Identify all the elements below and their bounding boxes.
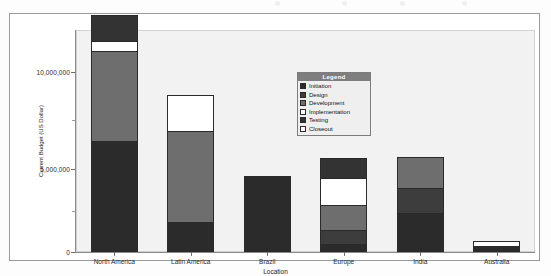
x-tick-mark [497,252,498,256]
legend-item-label: Design [309,91,328,100]
top-artifact-4 [462,1,467,6]
x-tick-label-australia: Australia [484,258,509,265]
x-tick-label-north-america: North America [94,258,135,265]
x-tick-mark [344,252,345,256]
chart-frame: Current Budget (US Dollar) 10,000,000 5,… [9,13,540,261]
legend-swatch-icon [300,109,306,115]
legend-swatch-icon [300,92,306,98]
x-tick-label-brazil: Brazil [259,258,275,265]
legend-item-initiation[interactable]: Initiation [300,82,368,91]
legend-item-label: Implementation [309,108,350,117]
x-tick-mark [114,252,115,256]
top-artifact-3 [400,1,405,6]
x-tick-mark [420,252,421,256]
legend-item-development[interactable]: Development [300,99,368,108]
top-artifact-1 [275,1,280,6]
x-tick-label-europe: Europe [333,258,354,265]
legend-title: Legend [298,73,370,81]
x-tick-mark [267,252,268,256]
x-tick-label-latin-america: Latin America [171,258,210,265]
legend-item-closeout[interactable]: Closeout [300,125,368,134]
legend-swatch-icon [300,83,306,89]
legend-swatch-icon [300,126,306,132]
legend-item-label: Closeout [309,125,333,134]
legend-item-testing[interactable]: Testing [300,116,368,125]
legend-items: InitiationDesignDevelopmentImplementatio… [298,81,370,135]
x-axis-layer: North AmericaLatin AmericaBrazilEuropeIn… [10,14,541,262]
legend-item-label: Testing [309,116,328,125]
x-tick-mark [191,252,192,256]
top-artifact-2 [342,1,347,6]
legend-swatch-icon [300,117,306,123]
x-tick-label-india: India [413,258,427,265]
legend-item-label: Development [309,99,344,108]
legend-item-implementation[interactable]: Implementation [300,108,368,117]
chart-legend[interactable]: Legend InitiationDesignDevelopmentImplem… [297,72,371,136]
legend-item-design[interactable]: Design [300,91,368,100]
x-axis-title: Location [10,268,541,275]
legend-item-label: Initiation [309,82,331,91]
legend-swatch-icon [300,100,306,106]
chart-screenshot: Current Budget (US Dollar) 10,000,000 5,… [0,0,551,276]
